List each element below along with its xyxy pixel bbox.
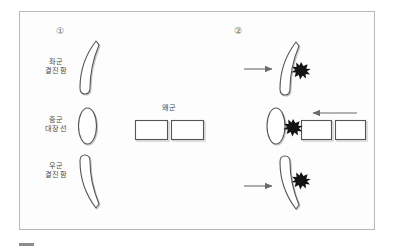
panel-2-marker: ②: [231, 27, 245, 36]
label-right-wing-line1: 우군: [34, 161, 78, 170]
label-enemy-fleet: 왜군: [151, 103, 187, 112]
label-left-wing: 좌군 결진함: [34, 57, 78, 75]
label-left-wing-line2: 결진함: [34, 66, 78, 75]
figure-stage: ① ② 좌군 결진함 중군 대장선 우군 결진함 왜군: [0, 0, 397, 250]
label-center-flagship: 중군 대장선: [34, 115, 78, 133]
bottom-dash-mark: [19, 243, 34, 246]
panel-1-marker: ①: [53, 27, 67, 36]
label-right-wing-line2: 결진함: [34, 170, 78, 179]
label-left-wing-line1: 좌군: [34, 57, 78, 66]
label-center-flagship-line2: 대장선: [34, 124, 78, 133]
label-center-flagship-line1: 중군: [34, 115, 78, 124]
label-right-wing: 우군 결진함: [34, 161, 78, 179]
